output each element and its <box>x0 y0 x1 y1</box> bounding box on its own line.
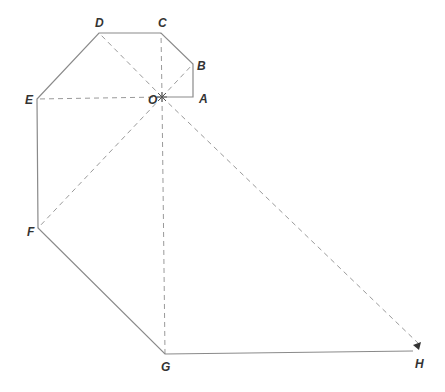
diagram-canvas: ABCDEFGHO <box>0 0 445 392</box>
solid-path <box>37 33 413 354</box>
arrowhead-icon <box>413 342 421 350</box>
dashed-ray-O-B <box>162 64 193 97</box>
dashed-ray-O-G <box>162 97 165 354</box>
point-label-O: O <box>148 93 158 107</box>
geometry-diagram: ABCDEFGHO <box>0 0 445 392</box>
point-label-C: C <box>158 16 167 30</box>
dashed-ray-O-C <box>161 33 162 97</box>
dashed-ray-O-F <box>38 97 162 228</box>
point-label-F: F <box>27 225 35 239</box>
dashed-ray-O-D <box>99 33 162 97</box>
point-label-H: H <box>415 357 424 371</box>
point-label-D: D <box>95 16 104 30</box>
point-label-E: E <box>25 93 34 107</box>
dashed-ray-O-E <box>37 97 162 99</box>
point-label-A: A <box>198 92 208 106</box>
point-label-G: G <box>161 360 170 374</box>
dashed-ray-O-H <box>162 97 419 344</box>
point-label-B: B <box>197 59 206 73</box>
